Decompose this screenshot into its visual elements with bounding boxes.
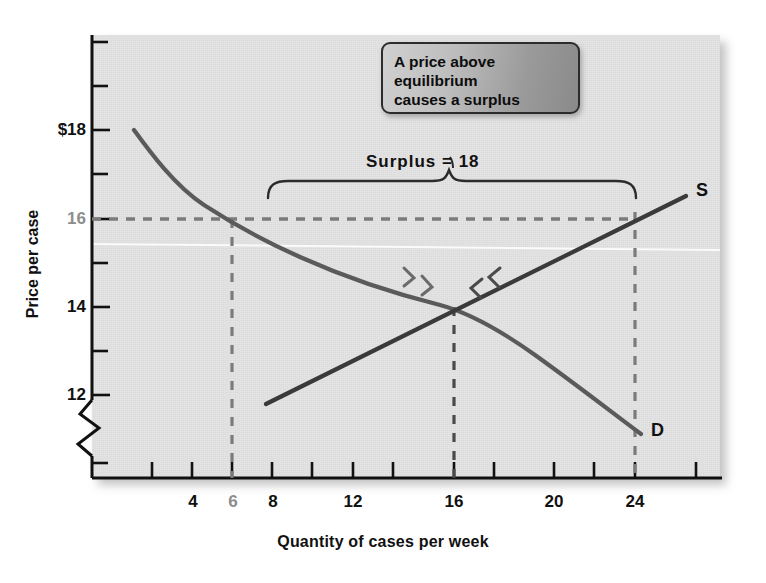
x-tick-label-4: 4	[182, 492, 204, 512]
arrow-chevron-d-2	[422, 276, 432, 295]
x-axis-title: Quantity of cases per week	[0, 533, 766, 551]
x-tick-label-8: 8	[262, 492, 284, 512]
x-tick-label-24: 24	[620, 492, 650, 512]
x-tick-label-6: 6	[222, 492, 244, 512]
x-tick-label-20: 20	[539, 492, 569, 512]
arrow-chevron-s-1	[489, 268, 500, 287]
arrow-chevron-s-2	[471, 279, 482, 298]
y-tick-label-18: $18	[36, 120, 86, 140]
x-axis-ticks	[152, 462, 696, 478]
y-axis-ticks	[92, 42, 110, 463]
surplus-bracket-label: Surplus = 18	[366, 152, 480, 172]
supply-curve-label: S	[696, 180, 708, 201]
demand-curve	[134, 130, 641, 434]
callout-line-3: causes a surplus	[394, 90, 578, 109]
y-tick-label-14: 14	[36, 297, 86, 317]
y-tick-label-16: 16	[36, 209, 86, 229]
arrow-chevron-d-1	[404, 268, 414, 286]
y-tick-label-12: 12	[36, 385, 86, 405]
x-tick-label-12: 12	[338, 492, 368, 512]
callout-line-1: A price above	[394, 52, 578, 71]
demand-curve-label: D	[651, 420, 664, 441]
figure-root: $18 16 14 12 4 6 8 12 16 20 24 Price per…	[0, 0, 766, 583]
y-axis-break-icon	[78, 400, 99, 456]
surplus-brace	[268, 170, 636, 198]
x-tick-label-16: 16	[439, 492, 469, 512]
y-axis-title: Price per case	[24, 184, 42, 344]
callout-box: A price above equilibrium causes a surpl…	[381, 42, 580, 114]
callout-line-2: equilibrium	[394, 71, 578, 90]
supply-curve	[266, 196, 686, 404]
convergence-arrows-demand	[404, 268, 432, 295]
